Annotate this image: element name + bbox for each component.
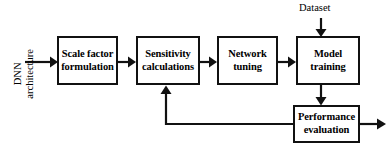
node-sensitivity-calculations[interactable]: Sensitivity calculations — [136, 36, 200, 85]
node-performance-evaluation-label: Performance evaluation — [296, 111, 357, 137]
edge-model-training-to-performance-evaluation — [316, 85, 327, 106]
edge-network-tuning-to-model-training — [278, 57, 296, 68]
node-network-tuning-label: Network tuning — [226, 48, 268, 74]
node-model-training[interactable]: Model training — [296, 36, 360, 85]
node-network-tuning[interactable]: Network tuning — [217, 36, 278, 85]
edge-scale-factor-formulation-to-sensitivity-calculations — [118, 57, 136, 68]
edge-dataset-to-model-training — [316, 18, 327, 37]
input-label-dataset: Dataset — [299, 2, 331, 13]
edge-performance-evaluation-feedback-to-sensitivity-calculations — [161, 86, 294, 125]
edge-performance-evaluation-to-output — [360, 119, 386, 130]
edge-sensitivity-calculations-to-network-tuning — [200, 57, 217, 68]
node-performance-evaluation[interactable]: Performance evaluation — [293, 105, 360, 143]
input-label-dnn-architecture: DNN architecture — [0, 38, 37, 110]
node-scale-factor-formulation[interactable]: Scale factor formulation — [57, 36, 118, 85]
diagram-canvas: DNN architecture Dataset Scale factor fo… — [0, 0, 390, 152]
node-model-training-label: Model training — [308, 48, 347, 74]
node-sensitivity-calculations-label: Sensitivity calculations — [140, 48, 196, 74]
input-label-dataset-text: Dataset — [299, 2, 331, 13]
node-scale-factor-formulation-label: Scale factor formulation — [59, 48, 116, 74]
input-label-dnn-architecture-text: DNN architecture — [12, 49, 36, 99]
